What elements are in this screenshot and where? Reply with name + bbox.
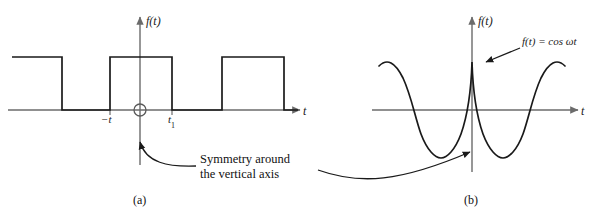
panel-b-caption: (b) [464, 193, 478, 207]
symmetry-annotation-line-2: the vertical axis [200, 167, 290, 182]
panel-a-y-axis-label: f(t) [146, 14, 161, 28]
symmetry-annotation: Symmetry around the vertical axis [200, 152, 290, 182]
panel-a-tick-label-t1: t1 [168, 113, 175, 129]
symmetry-annotation-line-1: Symmetry around [200, 152, 290, 167]
figure-container: f(t) t −t t1 (a) f(t) t f(t) = cos ωt (b… [0, 0, 594, 221]
cosine-curve-label: f(t) = cos ωt [522, 35, 577, 48]
square-wave-trace [12, 57, 298, 110]
curve-label-pointer-arrow [486, 48, 520, 62]
panel-a-caption: (a) [133, 193, 146, 207]
tick-label-text: −t [101, 113, 111, 125]
figure-drawing [0, 0, 594, 221]
symmetry-arrow-left [140, 142, 196, 166]
panel-b-x-axis-label: t [581, 104, 584, 118]
panel-a-tick-label-minus-t1: −t [101, 113, 111, 126]
panel-a-axes [8, 17, 300, 165]
tick-label-subscript: 1 [171, 121, 175, 130]
panel-b-y-axis-label: f(t) [478, 14, 493, 28]
panel-a-x-axis-label: t [303, 104, 306, 118]
